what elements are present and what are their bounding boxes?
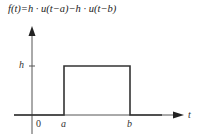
- height-label: h: [19, 60, 24, 70]
- x-axis-arrow-icon: [173, 112, 184, 119]
- pulse-diagram: [0, 0, 200, 137]
- y-axis-arrow-icon: [29, 26, 36, 36]
- x-axis-label: t: [188, 110, 191, 120]
- pulse-signal: [14, 66, 162, 115]
- start-label: a: [61, 119, 66, 129]
- origin-label: 0: [36, 119, 41, 129]
- end-label: b: [127, 119, 132, 129]
